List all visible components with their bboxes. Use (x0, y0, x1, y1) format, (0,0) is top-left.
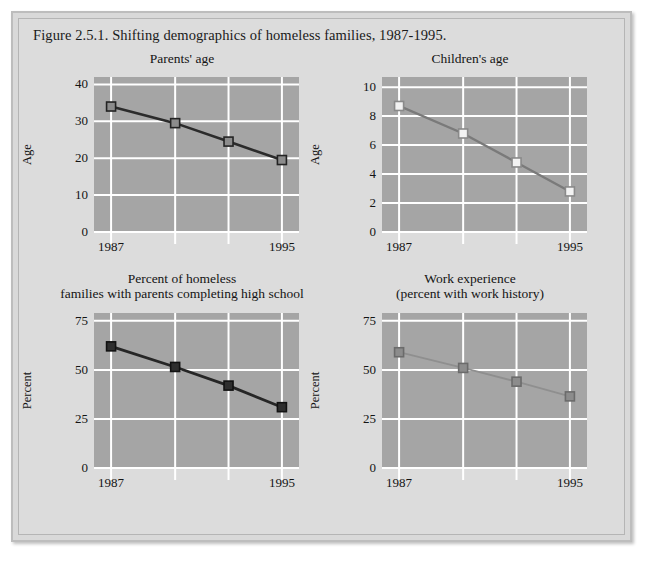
x-axis-tick-label: 1987 (369, 239, 429, 255)
data-point-marker (395, 101, 404, 110)
panel-title-line: Parents' age (37, 51, 327, 66)
data-point-marker (107, 102, 116, 111)
data-point-marker (565, 392, 574, 401)
y-axis-tick-label: 50 (336, 362, 376, 378)
data-point-marker (459, 129, 468, 138)
y-axis-tick-label: 0 (336, 224, 376, 240)
data-point-marker (459, 363, 468, 372)
panel-title-line: (percent with work history) (325, 286, 615, 301)
panel-parents-age: Parents' age010203040Age19871995 (37, 51, 327, 266)
panel-title: Percent of homelessfamilies with parents… (37, 271, 327, 301)
panel-title-line: Children's age (325, 51, 615, 66)
y-axis-tick-label: 8 (336, 108, 376, 124)
y-axis-label: Percent (308, 345, 323, 435)
y-axis-tick-label: 0 (336, 460, 376, 476)
plot-canvas (382, 313, 587, 484)
plot-area (94, 313, 299, 468)
data-point-marker (224, 137, 233, 146)
panel-title-line: Percent of homeless (37, 271, 327, 286)
y-axis-tick-label: 10 (336, 79, 376, 95)
data-point-marker (171, 362, 180, 371)
y-axis-label: Age (20, 109, 35, 199)
y-axis-label: Percent (20, 345, 35, 435)
x-axis-tick-label: 1987 (81, 475, 141, 491)
x-axis-tick-label: 1987 (81, 239, 141, 255)
data-point-marker (512, 377, 521, 386)
x-axis-tick-label: 1987 (369, 475, 429, 491)
y-axis-label: Age (308, 109, 323, 199)
x-axis-tick-label: 1995 (252, 475, 312, 491)
figure-frame: Figure 2.5.1. Shifting demographics of h… (11, 11, 632, 542)
plot-area (94, 77, 299, 232)
y-axis-tick-label: 25 (336, 411, 376, 427)
data-line (111, 346, 282, 407)
figure-title: Figure 2.5.1. Shifting demographics of h… (33, 27, 447, 44)
y-axis-tick-label: 4 (336, 166, 376, 182)
data-point-marker (171, 119, 180, 128)
y-axis-tick-label: 25 (48, 411, 88, 427)
plot-canvas (94, 313, 299, 484)
y-axis-tick-label: 20 (48, 150, 88, 166)
x-axis-tick-label: 1995 (540, 239, 600, 255)
y-axis-tick-label: 75 (336, 313, 376, 329)
y-axis-tick-label: 0 (48, 460, 88, 476)
data-line (399, 352, 570, 396)
panel-title: Work experience(percent with work histor… (325, 271, 615, 301)
data-point-marker (277, 156, 286, 165)
data-point-marker (395, 348, 404, 357)
data-point-marker (224, 381, 233, 390)
plot-area (382, 313, 587, 468)
y-axis-tick-label: 10 (48, 187, 88, 203)
y-axis-tick-label: 0 (48, 224, 88, 240)
data-point-marker (107, 342, 116, 351)
plot-area (382, 77, 587, 232)
x-axis-tick-label: 1995 (540, 475, 600, 491)
y-axis-tick-label: 50 (48, 362, 88, 378)
plot-canvas (94, 77, 299, 248)
y-axis-tick-label: 6 (336, 137, 376, 153)
y-axis-tick-label: 75 (48, 313, 88, 329)
y-axis-tick-label: 30 (48, 113, 88, 129)
panel-title: Children's age (325, 51, 615, 66)
panel-title-line: Work experience (325, 271, 615, 286)
y-axis-tick-label: 40 (48, 76, 88, 92)
y-axis-tick-label: 2 (336, 195, 376, 211)
figure-inner-frame: Figure 2.5.1. Shifting demographics of h… (18, 18, 625, 535)
data-line (399, 106, 570, 191)
plot-canvas (382, 77, 587, 248)
x-axis-tick-label: 1995 (252, 239, 312, 255)
panel-title: Parents' age (37, 51, 327, 66)
panel-title-line: families with parents completing high sc… (37, 286, 327, 301)
data-point-marker (512, 158, 521, 167)
data-line (111, 107, 282, 161)
panel-work-experience: Work experience(percent with work histor… (325, 271, 615, 526)
data-point-marker (277, 403, 286, 412)
data-point-marker (565, 187, 574, 196)
panel-high-school-completion: Percent of homelessfamilies with parents… (37, 271, 327, 526)
panel-childrens-age: Children's age0246810Age19871995 (325, 51, 615, 266)
